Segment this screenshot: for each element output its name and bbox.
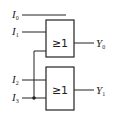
label-y0: Y0 — [96, 37, 105, 50]
wire-i3-branch — [34, 51, 46, 98]
gate-1-symbol: ≥1 — [52, 84, 68, 97]
or-gate-circuit-diagram: ≥1 ≥1 I0 I1 I2 I3 Y0 Y1 — [0, 0, 116, 121]
label-i2: I2 — [11, 73, 19, 86]
junction-dot — [32, 96, 36, 100]
label-i0: I0 — [11, 8, 19, 21]
label-i1: I1 — [11, 25, 19, 38]
label-y1: Y1 — [96, 84, 105, 97]
gate-0-symbol: ≥1 — [52, 37, 68, 50]
label-i3: I3 — [11, 91, 19, 104]
